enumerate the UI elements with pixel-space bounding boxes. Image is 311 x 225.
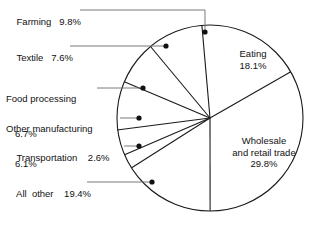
label-farming-text: Farming 9.8% [17, 16, 81, 27]
slice-marker-food-processing [140, 85, 145, 90]
label-wholesale-line2: and retail trade [218, 147, 310, 159]
label-eating-pct: 18.1% [222, 60, 284, 72]
slice-marker-farming [202, 29, 207, 34]
label-other-manufacturing-name: Other manufacturing [6, 123, 93, 135]
label-transportation-text: Transportation 2.6% [16, 152, 109, 163]
label-textile-text: Textile 7.6% [16, 52, 73, 63]
slice-marker-all-other [149, 179, 154, 184]
label-all-other: All other 19.4% [6, 176, 91, 211]
slice-marker-transportation [136, 143, 141, 148]
slice-marker-textile [163, 43, 168, 48]
label-wholesale-retail-trade: Wholesale and retail trade 29.8% [218, 135, 310, 170]
slice-marker-other-manufacturing [136, 115, 141, 120]
label-wholesale-pct: 29.8% [218, 158, 310, 170]
label-eating-name: Eating [222, 48, 284, 60]
label-farming: Farming 9.8% [6, 4, 81, 39]
label-wholesale-line1: Wholesale [218, 135, 310, 147]
pie-chart-figure: Farming 9.8% Textile 7.6% Food processin… [0, 0, 311, 225]
label-transportation: Transportation 2.6% [6, 140, 110, 175]
label-all-other-text: All other 19.4% [16, 188, 91, 199]
label-eating: Eating 18.1% [222, 48, 284, 71]
